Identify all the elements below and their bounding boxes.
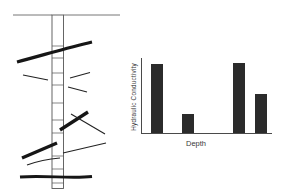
bar-fracture-zone-1 xyxy=(151,64,163,133)
thin-fracture-2 xyxy=(70,73,90,79)
bar-fracture-zone-2 xyxy=(182,114,194,133)
thin-fracture-3 xyxy=(68,87,87,92)
thin-fracture-4 xyxy=(71,114,105,134)
figure-borehole-conductivity: Hydraulic Conductivity Depth xyxy=(0,0,283,195)
thin-fracture-1 xyxy=(23,75,48,80)
y-axis-label: Hydraulic Conductivity xyxy=(130,63,137,131)
borehole-diagram xyxy=(0,0,145,195)
bar-fracture-zone-4 xyxy=(255,94,267,133)
bar-fracture-zone-3 xyxy=(233,63,245,133)
thin-fracture-5 xyxy=(63,143,106,153)
borehole-column xyxy=(52,15,64,189)
conductivity-bar-chart xyxy=(141,58,272,134)
x-axis-label: Depth xyxy=(186,139,206,148)
thick-fracture-4 xyxy=(20,176,92,177)
